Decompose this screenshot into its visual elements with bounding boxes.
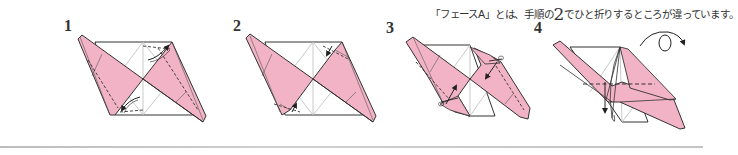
- turn-over-arrow-icon: [640, 32, 684, 51]
- section-divider: [0, 146, 703, 148]
- step-2-diagram: [246, 34, 376, 122]
- step-3-diagram: [406, 37, 530, 119]
- step-4-diagram: [553, 32, 685, 129]
- step-1-diagram: [78, 35, 206, 122]
